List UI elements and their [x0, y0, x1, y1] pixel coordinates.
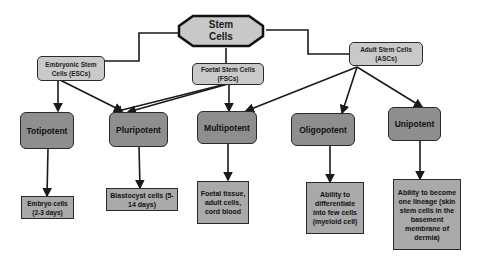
- example-blastocyst-cells-text: Blastocyst cells (5-14 days): [108, 191, 176, 209]
- node-unipotent: Unipotent: [388, 107, 441, 141]
- example-unipotent-ability-text: Ability to become one lineage (skin stem…: [395, 188, 459, 242]
- unipotent-label: Unipotent: [395, 119, 435, 129]
- asc-line1: Adult Stem Cells: [360, 46, 412, 53]
- example-embryo-cells: Embryo cells (2-3 days): [21, 196, 74, 219]
- example-foetal-tissue: Foetal tissue, adult cells, cord blood: [197, 181, 249, 224]
- example-foetal-tissue-text: Foetal tissue, adult cells, cord blood: [199, 189, 247, 216]
- example-unipotent-ability: Ability to become one lineage (skin stem…: [393, 179, 461, 250]
- pluripotent-label: Pluripotent: [116, 125, 161, 135]
- fsc-line1: Foetal Stem Cells: [201, 66, 255, 73]
- node-totipotent: Totipotent: [20, 112, 74, 149]
- root-label-line2: Cells: [209, 31, 233, 42]
- example-oligopotent-ability-text: Ability to differentiate into few cells …: [308, 190, 362, 226]
- root-label-line1: Stem: [209, 19, 233, 30]
- root-label: Stem Cells: [209, 19, 233, 43]
- node-foetal-stem-cells: Foetal Stem Cells(FSCs): [192, 63, 264, 85]
- esc-line2: Cells (ESCs): [52, 70, 91, 77]
- example-blastocyst-cells: Blastocyst cells (5-14 days): [106, 188, 178, 211]
- node-oligopotent: Oligopotent: [291, 113, 355, 146]
- node-embryonic-stem-cells: Embryonic StemCells (ESCs): [37, 56, 105, 81]
- asc-line2: (ASCs): [375, 55, 397, 62]
- totipotent-label: Totipotent: [27, 126, 68, 136]
- node-multipotent: Multipotent: [197, 111, 257, 144]
- node-pluripotent: Pluripotent: [109, 112, 168, 147]
- node-adult-stem-cells: Adult Stem Cells(ASCs): [349, 42, 423, 66]
- oligopotent-label: Oligopotent: [299, 125, 347, 135]
- example-oligopotent-ability: Ability to differentiate into few cells …: [306, 182, 364, 234]
- example-embryo-cells-text: Embryo cells (2-3 days): [23, 199, 72, 217]
- esc-line1: Embryonic Stem: [45, 61, 96, 68]
- fsc-line2: (FSCs): [218, 75, 239, 82]
- multipotent-label: Multipotent: [204, 123, 250, 133]
- root-node-stem-cells: Stem Cells: [177, 14, 265, 48]
